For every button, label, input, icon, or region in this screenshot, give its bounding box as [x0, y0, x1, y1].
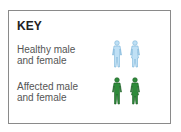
healthy-female-icon: [128, 40, 142, 68]
healthy-male-icon: [110, 40, 124, 68]
affected-label: Affected male and female: [17, 81, 78, 103]
affected-male-icon: [110, 77, 124, 105]
healthy-label-line2: and female: [17, 55, 75, 66]
healthy-label-line1: Healthy male: [17, 44, 75, 55]
affected-label-line1: Affected male: [17, 81, 78, 92]
healthy-label: Healthy male and female: [17, 44, 75, 66]
key-title: KEY: [17, 19, 42, 33]
affected-female-icon: [128, 77, 142, 105]
affected-label-line2: and female: [17, 92, 78, 103]
